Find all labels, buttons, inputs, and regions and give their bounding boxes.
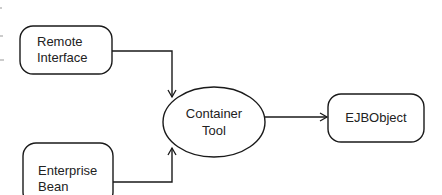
node-enterprise-bean: Enterprise Bean	[23, 143, 113, 195]
enterprise-bean-label-line2: Bean	[38, 179, 68, 194]
edge-marks	[0, 8, 4, 60]
edge-bean-to-container	[113, 148, 172, 182]
edge-remote-to-container	[112, 51, 172, 97]
remote-interface-label-line1: Remote	[37, 34, 83, 49]
enterprise-bean-label-line1: Enterprise	[38, 163, 97, 178]
container-tool-label-line1: Container	[186, 106, 243, 121]
diagram-canvas: Remote Interface Enterprise Bean Contain…	[0, 0, 442, 195]
remote-interface-label-line2: Interface	[37, 50, 88, 65]
ejbobject-label: EJBObject	[345, 110, 407, 125]
node-container-tool: Container Tool	[163, 87, 265, 157]
container-tool-label-line2: Tool	[202, 123, 226, 138]
node-ejbobject: EJBObject	[328, 94, 424, 142]
node-remote-interface: Remote Interface	[20, 26, 112, 74]
